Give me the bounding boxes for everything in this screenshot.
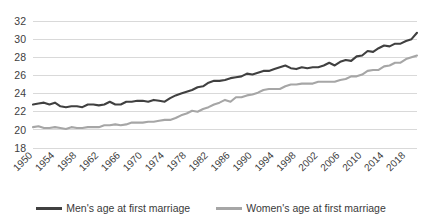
y-tick-label: 24 — [14, 87, 26, 99]
legend-item-women: Women's age at first marriage — [216, 202, 386, 214]
y-tick-label: 28 — [14, 51, 26, 63]
x-tick-label: 2006 — [318, 149, 342, 173]
x-tick-label: 1986 — [208, 149, 232, 173]
series-line-women — [33, 55, 417, 128]
data-series — [33, 33, 417, 129]
gridlines — [33, 21, 417, 148]
y-axis-tick-labels: 1820222426283032 — [14, 15, 26, 154]
x-tick-label: 1970 — [121, 149, 145, 173]
x-tick-label: 2002 — [296, 149, 320, 173]
line-chart: 1820222426283032 19501954195819621966197… — [0, 0, 422, 218]
y-tick-label: 26 — [14, 69, 26, 81]
chart-plot-area: 1820222426283032 19501954195819621966197… — [0, 0, 422, 218]
x-tick-label: 2018 — [384, 149, 408, 173]
y-tick-label: 32 — [14, 15, 26, 27]
y-tick-label: 22 — [14, 105, 26, 117]
legend-label-women: Women's age at first marriage — [246, 202, 386, 214]
y-tick-label: 30 — [14, 33, 26, 45]
legend-swatch-men-icon — [36, 207, 62, 210]
x-axis-tick-labels: 1950195419581962196619701974197819821986… — [11, 149, 408, 173]
series-line-men — [33, 33, 417, 107]
x-tick-label: 1958 — [55, 149, 79, 173]
x-tick-label: 1974 — [143, 149, 167, 173]
legend-item-men: Men's age at first marriage — [36, 202, 190, 214]
legend-label-men: Men's age at first marriage — [66, 202, 190, 214]
legend-swatch-women-icon — [216, 207, 242, 210]
x-tick-label: 1962 — [77, 149, 101, 173]
x-tick-label: 1990 — [230, 149, 254, 173]
x-tick-label: 1998 — [274, 149, 298, 173]
x-tick-label: 2014 — [362, 149, 386, 173]
chart-legend: Men's age at first marriage Women's age … — [0, 202, 422, 214]
x-tick-label: 2010 — [340, 149, 364, 173]
x-tick-label: 1954 — [33, 149, 57, 173]
x-tick-label: 1966 — [99, 149, 123, 173]
y-tick-label: 20 — [14, 124, 26, 136]
x-tick-label: 1982 — [186, 149, 210, 173]
x-tick-label: 1994 — [252, 149, 276, 173]
x-tick-label: 1978 — [165, 149, 189, 173]
